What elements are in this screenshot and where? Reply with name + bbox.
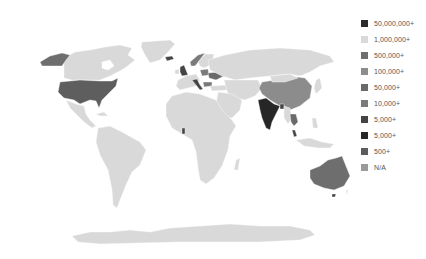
legend-item[interactable]: 50,000+: [361, 79, 426, 95]
legend-swatch: [361, 68, 368, 75]
region-japan[interactable]: [314, 78, 322, 94]
legend-item[interactable]: 10,000+: [361, 95, 426, 111]
region-russia[interactable]: [208, 48, 334, 80]
legend-label: 5,000+: [374, 132, 396, 139]
legend-item[interactable]: 5,000+: [361, 111, 426, 127]
legend-item[interactable]: 500,000+: [361, 47, 426, 63]
region-united-states[interactable]: [58, 78, 118, 108]
legend-swatch: [361, 100, 368, 107]
region-turkey[interactable]: [210, 85, 228, 91]
legend-label: 1,000,000+: [374, 36, 410, 43]
region-poland[interactable]: [200, 69, 209, 76]
legend-label: 500+: [374, 148, 390, 155]
region-australia[interactable]: [310, 156, 350, 190]
legend-item[interactable]: 1,000,000+: [361, 31, 426, 47]
legend-label: 10,000+: [374, 100, 400, 107]
region-iceland[interactable]: [165, 56, 174, 61]
legend-item[interactable]: N/A: [361, 159, 426, 175]
legend-swatch: [361, 52, 368, 59]
legend-item[interactable]: 5,000+: [361, 127, 426, 143]
legend-label: 100,000+: [374, 68, 404, 75]
region-south-america[interactable]: [96, 126, 146, 208]
region-indonesia[interactable]: [296, 138, 334, 148]
legend-item[interactable]: 500+: [361, 143, 426, 159]
world-map: [0, 0, 350, 259]
region-ghana[interactable]: [182, 128, 185, 134]
region-new-zealand[interactable]: [346, 190, 348, 196]
legend-label: N/A: [374, 164, 386, 171]
region-antarctica[interactable]: [72, 224, 315, 244]
region-bangladesh[interactable]: [280, 104, 284, 109]
legend-swatch: [361, 164, 368, 171]
region-madagascar[interactable]: [234, 158, 240, 170]
legend-swatch: [361, 36, 368, 43]
legend-swatch: [361, 116, 368, 123]
region-tasmania[interactable]: [332, 194, 336, 197]
region-ireland[interactable]: [175, 69, 179, 74]
legend-swatch: [361, 20, 368, 27]
region-thailand[interactable]: [290, 114, 298, 126]
legend: 50,000,000+ 1,000,000+ 500,000+ 100,000+…: [361, 15, 426, 175]
legend-label: 50,000+: [374, 84, 400, 91]
region-canada[interactable]: [64, 45, 135, 80]
legend-swatch: [361, 148, 368, 155]
region-caribbean[interactable]: [96, 112, 108, 116]
legend-swatch: [361, 132, 368, 139]
region-united-kingdom[interactable]: [180, 65, 188, 76]
region-philippines[interactable]: [312, 118, 318, 128]
region-mexico[interactable]: [66, 100, 96, 128]
legend-label: 50,000,000+: [374, 20, 414, 27]
legend-label: 500,000+: [374, 52, 404, 59]
region-malaysia[interactable]: [292, 130, 297, 137]
legend-item[interactable]: 50,000,000+: [361, 15, 426, 31]
legend-label: 5,000+: [374, 116, 396, 123]
legend-swatch: [361, 84, 368, 91]
legend-item[interactable]: 100,000+: [361, 63, 426, 79]
